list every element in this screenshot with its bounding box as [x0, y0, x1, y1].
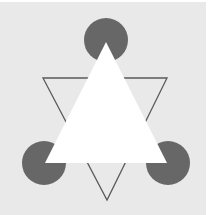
figure-svg	[0, 0, 215, 215]
illusory-white-triangle	[45, 42, 167, 163]
kanizsa-figure	[0, 0, 215, 215]
